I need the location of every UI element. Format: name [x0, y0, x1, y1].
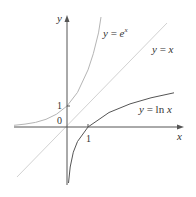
x-tick-1-label: 1	[86, 133, 91, 144]
x-axis-arrow-icon	[177, 125, 184, 130]
chart: y x 0 1 1 y = ex y = x y = ln x	[0, 0, 196, 197]
x-axis-label: x	[176, 130, 182, 142]
origin-label: 0	[57, 115, 62, 126]
y-axis-label: y	[56, 12, 62, 24]
y-axis-arrow-icon	[65, 15, 70, 22]
exp-curve-label: y = ex	[102, 26, 129, 39]
y-tick-1-label: 1	[57, 100, 62, 111]
ln-curve-label: y = ln x	[138, 103, 172, 115]
identity-label: y = x	[151, 43, 174, 55]
